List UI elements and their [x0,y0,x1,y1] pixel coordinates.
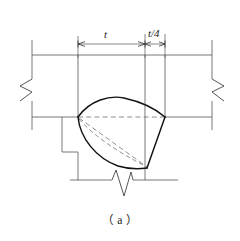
dimension-label-t4: t/4 [148,28,160,39]
engineering-drawing [0,0,240,241]
gouge-crest-curve [78,97,165,117]
figure-caption: （ a ） [0,211,240,227]
plate-outline-group [32,40,212,180]
break-symbol-right-icon [212,79,224,101]
dimension-label-t: t [104,29,107,40]
gouge-outline-group [78,97,165,168]
figure-container: t t/4 （ a ） [0,0,240,241]
break-symbols-group [20,79,224,196]
hidden-lines-group [78,117,165,167]
break-symbol-bottom-icon [112,170,133,196]
hidden-line-upper-ray [79,118,147,167]
break-symbol-left-icon [20,79,32,101]
left-step-notch [62,117,78,152]
gouge-right-edge [147,117,165,168]
